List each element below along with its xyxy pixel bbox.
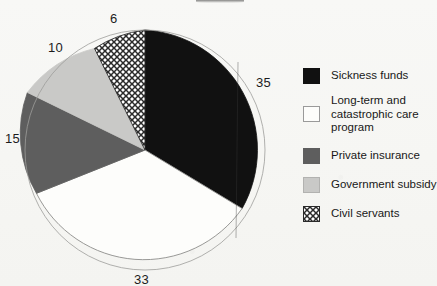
legend-item-long-term-care: Long-term andcatastrophic careprogram <box>303 93 437 135</box>
legend-swatch-cross-hatch-icon <box>303 206 320 222</box>
legend-swatch-solid-black-icon <box>303 68 320 84</box>
pie-chart-figure: 6 35 33 15 10 Sickness funds Long-term a… <box>0 0 437 286</box>
value-label-government-subsidy: 10 <box>48 40 63 55</box>
legend-label-government-subsidy: Government subsidy <box>331 177 436 192</box>
value-label-sickness-funds: 35 <box>256 75 271 90</box>
legend-item-government-subsidy: Government subsidy <box>303 177 437 193</box>
chart-plot-area: 6 35 33 15 10 <box>0 0 290 286</box>
chart-legend: Sickness funds Long-term andcatastrophic… <box>303 68 437 231</box>
pie-svg <box>0 0 290 286</box>
legend-label-civil-servants: Civil servants <box>331 206 399 221</box>
legend-item-sickness-funds: Sickness funds <box>303 68 437 84</box>
legend-swatch-outline-white-icon <box>303 106 320 122</box>
value-label-private-insurance: 15 <box>5 131 20 146</box>
value-label-long-term-care: 33 <box>134 272 149 286</box>
value-label-civil-servants: 6 <box>110 11 117 26</box>
legend-swatch-solid-light-grey-icon <box>303 177 320 193</box>
legend-label-private-insurance: Private insurance <box>331 148 420 163</box>
legend-item-civil-servants: Civil servants <box>303 206 437 222</box>
legend-label-long-term-care: Long-term andcatastrophic careprogram <box>331 93 419 135</box>
legend-swatch-solid-dark-grey-icon <box>303 148 320 164</box>
legend-label-sickness-funds: Sickness funds <box>331 68 408 83</box>
legend-item-private-insurance: Private insurance <box>303 148 437 164</box>
